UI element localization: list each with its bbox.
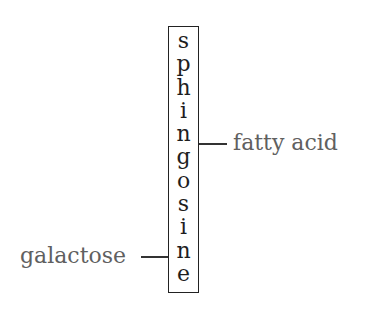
backbone-letter: g bbox=[176, 145, 190, 168]
backbone-letter: s bbox=[178, 192, 189, 215]
sphingosine-letters: s p h i n g o s i n e bbox=[169, 29, 198, 285]
backbone-letter: i bbox=[180, 215, 187, 238]
galactose-label: galactose bbox=[20, 245, 126, 267]
backbone-letter: p bbox=[176, 52, 190, 75]
sphingosine-backbone-box: s p h i n g o s i n e bbox=[168, 26, 199, 293]
backbone-letter: i bbox=[180, 99, 187, 122]
galactose-connector bbox=[141, 256, 168, 258]
fatty-acid-connector bbox=[199, 143, 227, 145]
backbone-letter: n bbox=[176, 122, 190, 145]
fatty-acid-label: fatty acid bbox=[233, 132, 338, 154]
backbone-letter: s bbox=[178, 29, 189, 52]
backbone-letter: o bbox=[177, 169, 190, 192]
backbone-letter: n bbox=[176, 239, 190, 262]
backbone-letter: e bbox=[177, 262, 190, 285]
backbone-letter: h bbox=[176, 76, 190, 99]
